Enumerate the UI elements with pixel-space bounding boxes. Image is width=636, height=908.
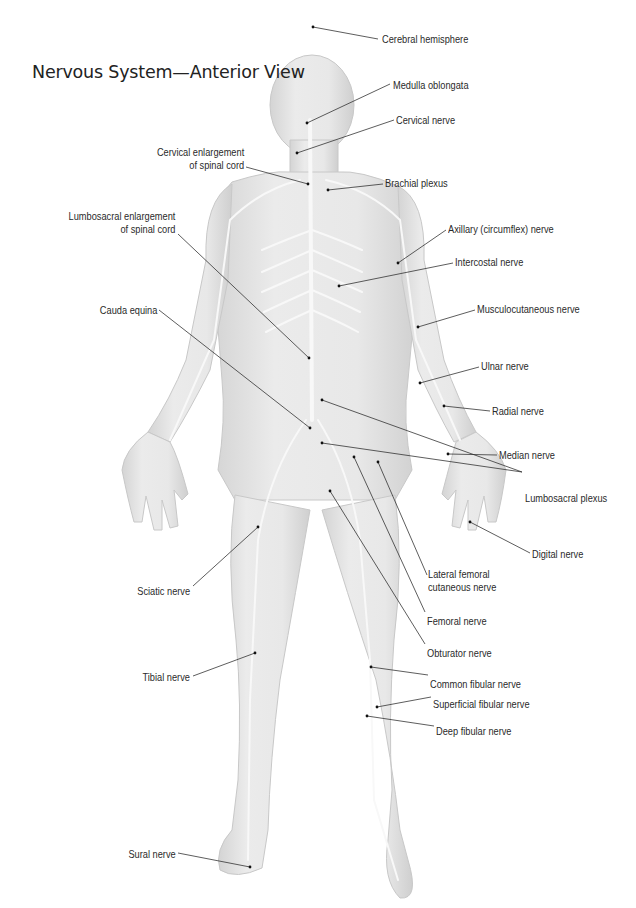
leader-dot-lumbosacral-enlargement [308, 357, 311, 360]
leader-line-deep-fibular-nerve [367, 716, 434, 726]
leader-line-digital-nerve [470, 522, 530, 553]
leader-dot-cauda-equina [309, 427, 312, 430]
label-sural-nerve: Sural nerve [129, 848, 176, 861]
leader-dot-brachial-plexus [327, 189, 330, 192]
label-cervical-nerve: Cervical nerve [396, 114, 455, 127]
leader-dot-digital-nerve [469, 521, 472, 524]
leader-dot-lateral-femoral-cutaneous-nerve [377, 461, 380, 464]
label-intercostal-nerve: Intercostal nerve [455, 256, 523, 269]
leader-dot-lumbosacral-plexus [321, 399, 324, 402]
leader-dot-radial-nerve [443, 405, 446, 408]
leader-dot-medulla-oblongata [306, 122, 309, 125]
neck-shape [290, 140, 338, 175]
label-ulnar-nerve: Ulnar nerve [481, 360, 529, 373]
leader-dot-superficial-fibular-nerve [376, 706, 379, 709]
label-lumbosacral-plexus: Lumbosacral plexus [525, 492, 607, 505]
label-medulla-oblongata: Medulla oblongata [393, 79, 469, 92]
leader-dot-musculocutaneous-nerve [417, 326, 420, 329]
torso-shape [212, 172, 420, 500]
leader-dot-lumbosacral-plexus-2 [321, 442, 324, 445]
leader-dot-common-fibular-nerve [370, 666, 373, 669]
label-cauda-equina: Cauda equina [99, 304, 157, 317]
label-brachial-plexus: Brachial plexus [385, 177, 448, 190]
label-obturator-nerve: Obturator nerve [427, 647, 492, 660]
label-superficial-fibular-nerve: Superficial fibular nerve [433, 698, 530, 711]
leader-dot-ulnar-nerve [419, 382, 422, 385]
leader-dot-cerebral-hemisphere [312, 26, 315, 29]
label-digital-nerve: Digital nerve [532, 548, 583, 561]
leader-dot-sciatic-nerve [257, 526, 260, 529]
leader-dot-intercostal-nerve [338, 285, 341, 288]
leader-dot-cervical-nerve [296, 152, 299, 155]
leader-dot-deep-fibular-nerve [366, 715, 369, 718]
leader-dot-femoral-nerve [353, 456, 356, 459]
label-femoral-nerve: Femoral nerve [427, 615, 487, 628]
leg-left-shape [219, 495, 311, 875]
label-median-nerve: Median nerve [499, 449, 555, 462]
label-deep-fibular-nerve: Deep fibular nerve [436, 725, 512, 738]
nervous-system-diagram: Nervous System—Anterior View Cerebral he… [0, 0, 636, 908]
leader-dot-median-nerve [447, 453, 450, 456]
body-silhouette [122, 55, 506, 898]
leader-line-cerebral-hemisphere [313, 27, 378, 39]
label-radial-nerve: Radial nerve [492, 405, 544, 418]
label-lumbosacral-enlargement: Lumbosacral enlargementof spinal cord [68, 210, 175, 236]
leader-dot-cervical-enlargement [307, 183, 310, 186]
leader-dot-obturator-nerve [329, 490, 332, 493]
leader-dot-tibial-nerve [254, 652, 257, 655]
label-axillary-nerve: Axillary (circumflex) nerve [448, 223, 554, 236]
hand-left-shape [122, 432, 188, 530]
label-cerebral-hemisphere: Cerebral hemisphere [382, 33, 468, 46]
label-common-fibular-nerve: Common fibular nerve [430, 678, 521, 691]
leader-dot-sural-nerve [249, 866, 252, 869]
label-tibial-nerve: Tibial nerve [143, 671, 190, 684]
diagram-title: Nervous System—Anterior View [32, 62, 305, 82]
leader-dot-axillary-nerve [397, 262, 400, 265]
label-sciatic-nerve: Sciatic nerve [137, 585, 190, 598]
label-cervical-enlargement: Cervical enlargementof spinal cord [157, 146, 244, 172]
label-musculocutaneous-nerve: Musculocutaneous nerve [477, 303, 580, 316]
label-lateral-femoral-cutaneous-nerve: Lateral femoralcutaneous nerve [428, 568, 496, 594]
